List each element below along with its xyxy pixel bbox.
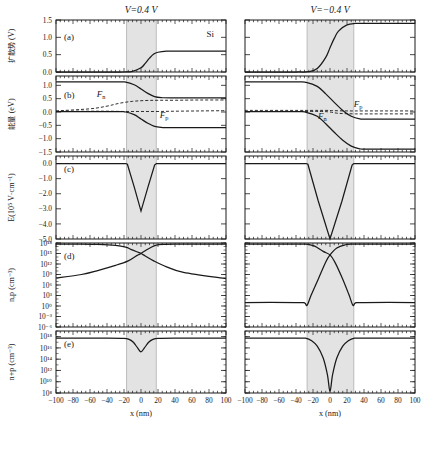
x-tick-label: 0: [328, 396, 332, 405]
y-tick-label: 10⁻³: [38, 312, 52, 321]
y-tick-label: −1.5: [39, 148, 53, 157]
panel-label-b: (b): [64, 90, 75, 100]
depletion-region-shading: [127, 243, 157, 327]
x-tick-label: 20: [343, 396, 351, 405]
fermi-label-fp-reverse: Fp: [353, 99, 363, 110]
y-tick-label: 10¹⁵: [40, 249, 53, 258]
y-tick-label: 10⁶: [42, 281, 52, 290]
y-axis-label-a: 扩散势 (V): [7, 28, 16, 63]
x-tick-label: 100: [409, 396, 420, 405]
x-tick-label: 80: [205, 396, 213, 405]
figure-canvas: 1.51.00.50.0(a)1.00.50.0−0.5−1.0−1.5(b)0…: [0, 0, 440, 453]
x-axis-label: x (nm): [130, 409, 152, 418]
x-tick-label: 40: [360, 396, 368, 405]
y-tick-label: 10¹²: [40, 366, 53, 375]
column-title-forward-bias: V=0.4 V: [125, 4, 159, 15]
y-tick-label: 10⁹: [42, 270, 52, 279]
y-axis-label-e: n+p (cm⁻³): [7, 343, 16, 380]
depletion-region-shading: [307, 331, 354, 393]
x-tick-label: 20: [154, 396, 162, 405]
y-tick-label: 10¹⁸: [40, 332, 53, 341]
panel-label-e: (e): [64, 339, 74, 349]
y-axis-label-c: E(10⁵ V·cm⁻¹): [7, 173, 16, 222]
x-tick-label: −100: [48, 396, 64, 405]
y-tick-label: −1.0: [39, 134, 53, 143]
x-tick-label: −20: [307, 396, 319, 405]
x-tick-label: 40: [171, 396, 179, 405]
y-tick-label: 10¹⁶: [40, 344, 53, 353]
x-tick-label: −20: [118, 396, 130, 405]
y-tick-label: −3.0: [39, 204, 53, 213]
depletion-region-shading: [127, 156, 157, 239]
x-tick-label: 60: [188, 396, 196, 405]
y-tick-label: 10¹⁴: [40, 355, 53, 364]
depletion-region-shading: [127, 20, 157, 72]
x-tick-label: −60: [273, 396, 285, 405]
x-tick-label: −80: [256, 396, 268, 405]
y-axis-label-d: n,p (cm⁻³): [7, 268, 16, 302]
material-annotation-si: Si: [206, 29, 214, 39]
y-tick-label: 0.5: [43, 94, 53, 103]
y-tick-label: 10⁻⁶: [38, 323, 52, 332]
y-tick-label: 1.5: [43, 16, 53, 25]
y-tick-label: 0.0: [43, 108, 53, 117]
y-tick-label: −0.5: [39, 121, 53, 130]
x-tick-label: −40: [290, 396, 302, 405]
x-tick-label: 80: [394, 396, 402, 405]
fermi-label-fn-forward: Fn: [96, 89, 107, 100]
y-tick-label: 0.0: [43, 159, 53, 168]
x-tick-label: −100: [237, 396, 253, 405]
y-tick-label: 10³: [42, 291, 52, 300]
y-tick-label: −1.0: [39, 174, 53, 183]
y-tick-label: 10¹²: [40, 260, 53, 269]
y-tick-label: 10¹⁰: [39, 377, 52, 386]
x-axis-label: x (nm): [319, 409, 341, 418]
column-title-reverse-bias: V=−0.4 V: [310, 4, 350, 15]
y-tick-label: 1.0: [43, 33, 53, 42]
panel-label-d: (d): [64, 251, 75, 261]
x-tick-label: 100: [220, 396, 231, 405]
panel-label-a: (a): [64, 32, 74, 42]
depletion-region-shading: [307, 156, 354, 239]
y-axis-label-b: 能量 (eV): [7, 98, 16, 130]
y-tick-label: −2.0: [39, 189, 53, 198]
y-tick-label: −4.0: [39, 220, 53, 229]
x-tick-label: −80: [67, 396, 79, 405]
y-tick-label: 0.5: [43, 50, 53, 59]
x-tick-label: −40: [101, 396, 113, 405]
panel-label-c: (c): [64, 164, 74, 174]
y-tick-label: 10¹⁸: [40, 239, 53, 248]
y-tick-label: 1.0: [43, 81, 53, 90]
y-tick-label: 10⁰: [42, 302, 52, 311]
x-tick-label: 60: [377, 396, 385, 405]
x-tick-label: −60: [84, 396, 96, 405]
x-tick-label: 0: [139, 396, 143, 405]
figure-root: 1.51.00.50.0(a)1.00.50.0−0.5−1.0−1.5(b)0…: [0, 0, 440, 453]
y-tick-label: 0.0: [43, 68, 53, 77]
